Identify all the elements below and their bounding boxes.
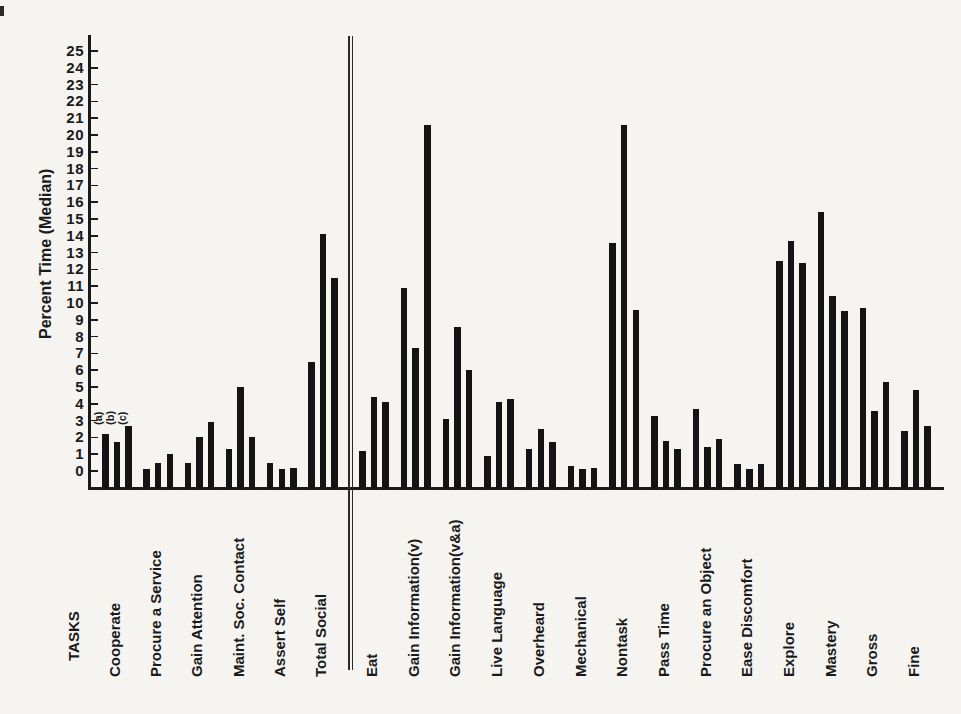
y-axis-tick-label: 19 xyxy=(52,144,84,160)
y-axis-tick xyxy=(90,437,98,439)
bar-nontask-a xyxy=(609,243,616,489)
x-axis-label: Total Social xyxy=(312,594,329,677)
x-axis-label: Assert Self xyxy=(271,599,288,677)
bar-gain-attention-b xyxy=(196,437,203,489)
y-axis-tick-label: 8 xyxy=(52,329,84,345)
y-axis-tick xyxy=(90,218,98,220)
y-axis-tick xyxy=(90,386,98,388)
bar-explore-c xyxy=(799,263,806,489)
x-axis-line xyxy=(88,487,944,490)
y-axis-tick-label: 14 xyxy=(52,228,84,244)
bar-series-label: (c) xyxy=(116,412,129,425)
y-axis-tick-label: 16 xyxy=(52,194,84,210)
y-axis-tick xyxy=(90,369,98,371)
x-axis-label: Explore xyxy=(780,622,797,677)
y-axis-tick xyxy=(90,453,98,455)
y-axis-tick-label: 9 xyxy=(52,312,84,328)
bar-eat-c xyxy=(382,402,389,489)
x-axis-label: Overheard xyxy=(530,602,547,677)
x-axis-label: Procure an Object xyxy=(697,548,714,677)
bar-mechanical-a xyxy=(568,466,575,489)
bar-live-language-b xyxy=(496,402,503,489)
bar-gain-information-v-a--a xyxy=(443,419,450,489)
x-axis-label: Mastery xyxy=(822,620,839,677)
y-axis-tick xyxy=(90,353,98,355)
y-axis-tick-label: 10 xyxy=(52,295,84,311)
y-axis-tick-label: 4 xyxy=(52,396,84,412)
y-axis-tick xyxy=(90,302,98,304)
bar-mastery-b xyxy=(829,296,836,489)
y-axis-tick xyxy=(90,201,98,203)
y-axis-tick-label: 18 xyxy=(52,161,84,177)
bar-procure-a-service-c xyxy=(167,454,174,489)
y-axis-tick xyxy=(90,84,98,86)
y-axis-tick xyxy=(90,252,98,254)
y-axis-tick-label: 22 xyxy=(52,93,84,109)
bar-gross-a xyxy=(860,308,867,489)
bar-gain-information-v--b xyxy=(412,348,419,489)
bar-overheard-b xyxy=(538,429,545,489)
x-axis-label: Fine xyxy=(905,646,922,677)
bar-total-social-a xyxy=(308,362,315,489)
y-axis-tick xyxy=(90,117,98,119)
bar-mastery-a xyxy=(818,212,825,489)
bar-gain-information-v-a--b xyxy=(454,327,461,489)
bar-assert-self-c xyxy=(290,468,297,489)
bar-procure-an-object-a xyxy=(693,409,700,489)
y-axis-tick-label: 15 xyxy=(52,211,84,227)
bar-procure-a-service-b xyxy=(155,463,162,489)
scan-artifact xyxy=(0,6,4,16)
bar-nontask-c xyxy=(633,310,640,489)
tasks-axis-header: TASKS xyxy=(65,611,82,661)
bar-maint-soc-contact-b xyxy=(237,387,244,489)
bar-mechanical-b xyxy=(579,469,586,489)
bar-assert-self-b xyxy=(279,469,286,489)
bar-fine-c xyxy=(924,426,931,489)
bar-ease-discomfort-b xyxy=(746,469,753,489)
bar-fine-a xyxy=(901,431,908,489)
bar-gross-b xyxy=(871,411,878,489)
y-axis-tick-label: 13 xyxy=(52,245,84,261)
bar-mechanical-c xyxy=(591,468,598,489)
x-axis-label: Procure a Service xyxy=(147,550,164,677)
bar-gain-information-v--a xyxy=(401,288,408,489)
bar-pass-time-b xyxy=(663,441,670,489)
y-axis-tick-label: 3 xyxy=(52,413,84,429)
bar-overheard-a xyxy=(526,449,533,489)
y-axis-tick-label: 5 xyxy=(52,379,84,395)
y-axis-tick-label: 23 xyxy=(52,77,84,93)
bar-nontask-b xyxy=(621,125,628,489)
x-axis-label: Ease Discomfort xyxy=(738,559,755,677)
y-axis-tick xyxy=(90,319,98,321)
bar-procure-a-service-a xyxy=(143,469,150,489)
bar-cooperate-a xyxy=(102,434,109,489)
bar-explore-b xyxy=(788,241,795,489)
section-separator-line xyxy=(348,36,350,670)
x-axis-label: Nontask xyxy=(613,618,630,677)
bar-gross-c xyxy=(883,382,890,489)
y-axis-tick xyxy=(90,235,98,237)
y-axis-tick-label: 20 xyxy=(52,127,84,143)
bar-assert-self-a xyxy=(267,463,274,489)
x-axis-label: Cooperate xyxy=(106,603,123,677)
x-axis-label: Mechanical xyxy=(572,596,589,677)
x-axis-label: Gain Information(v&a) xyxy=(446,519,463,677)
y-axis-tick-label: 12 xyxy=(52,261,84,277)
bar-cooperate-b xyxy=(114,442,121,489)
y-axis-tick xyxy=(90,470,98,472)
y-axis-tick-label: 17 xyxy=(52,177,84,193)
bar-gain-attention-a xyxy=(185,463,192,489)
bar-live-language-a xyxy=(484,456,491,489)
y-axis-tick-label: 25 xyxy=(52,43,84,59)
y-axis-tick-label: 11 xyxy=(52,278,84,294)
bar-live-language-c xyxy=(507,399,514,489)
bar-fine-b xyxy=(913,390,920,489)
y-axis-tick-label: 0 xyxy=(52,463,84,479)
y-axis-tick xyxy=(90,269,98,271)
bar-eat-b xyxy=(371,397,378,489)
bar-maint-soc-contact-c xyxy=(249,437,256,489)
bar-chart-figure: Percent Time (Median) TASKS 012345678910… xyxy=(0,0,961,714)
bar-explore-a xyxy=(776,261,783,489)
y-axis-tick xyxy=(90,50,98,52)
y-axis-tick-label: 7 xyxy=(52,345,84,361)
